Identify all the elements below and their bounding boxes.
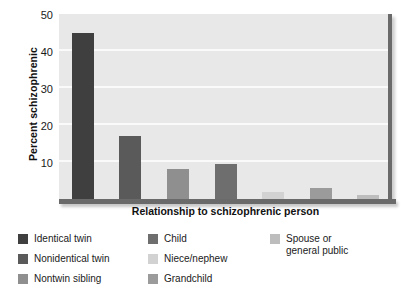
legend-item-label: Grandchild: [164, 273, 212, 285]
y-tick-label-10: 10: [27, 157, 53, 169]
bar-3: [215, 164, 237, 199]
legend-swatch-icon: [148, 254, 158, 264]
legend: Identical twinNonidentical twinNontwin s…: [18, 233, 398, 295]
legend-item: Child: [148, 233, 260, 246]
legend-item: Nontwin sibling: [18, 273, 140, 286]
legend-item-label: Nontwin sibling: [34, 273, 101, 285]
plot-area-wrapper: [59, 14, 392, 199]
legend-swatch-icon: [18, 234, 28, 244]
gridline-20: [59, 123, 388, 125]
legend-swatch-icon: [270, 234, 280, 244]
legend-item: Niece/nephew: [148, 253, 260, 266]
x-axis-line: [59, 199, 396, 204]
legend-item: Nonidentical twin: [18, 253, 140, 266]
bar-1: [119, 136, 141, 199]
legend-item-label: Niece/nephew: [164, 253, 227, 265]
legend-swatch-icon: [148, 234, 158, 244]
bar-chart-figure: Percent schizophrenic 1020304050 Relatio…: [0, 0, 408, 301]
legend-item: Grandchild: [148, 273, 260, 286]
bar-0: [72, 33, 94, 200]
legend-column-2: Spouse or general public: [270, 233, 400, 253]
legend-item-label: Identical twin: [34, 233, 92, 245]
y-axis-tick-labels: 1020304050: [22, 14, 53, 199]
gridline-40: [59, 49, 388, 51]
legend-item-label: Spouse or general public: [286, 233, 348, 256]
legend-swatch-icon: [148, 274, 158, 284]
y-tick-label-30: 30: [27, 83, 53, 95]
legend-swatch-icon: [18, 254, 28, 264]
legend-item: Spouse or general public: [270, 233, 400, 246]
legend-column-1: ChildNiece/nephewGrandchild: [148, 233, 260, 293]
legend-swatch-icon: [18, 274, 28, 284]
y-tick-label-20: 20: [27, 120, 53, 132]
legend-item: Identical twin: [18, 233, 140, 246]
bar-5: [310, 188, 332, 199]
y-tick-label-40: 40: [27, 46, 53, 58]
legend-item-label: Nonidentical twin: [34, 253, 110, 265]
bar-2: [167, 169, 189, 199]
gridline-30: [59, 86, 388, 88]
y-tick-label-50: 50: [27, 9, 53, 21]
legend-item-label: Child: [164, 233, 187, 245]
legend-column-0: Identical twinNonidentical twinNontwin s…: [18, 233, 140, 293]
bar-4: [262, 192, 284, 199]
x-axis-title: Relationship to schizophrenic person: [59, 205, 392, 217]
gridline-10: [59, 160, 388, 162]
plot-area: [59, 14, 392, 199]
